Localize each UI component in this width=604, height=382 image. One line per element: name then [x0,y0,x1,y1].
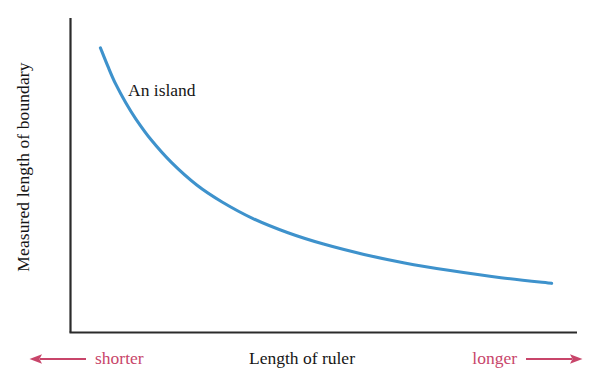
arrow-right-icon [524,350,584,368]
longer-label: longer [472,350,517,368]
x-axis-title: Length of ruler [249,350,355,368]
fractal-coastline-chart: Measured length of boundary An island sh… [0,0,604,382]
longer-caption: longer [472,344,584,374]
plot-canvas [0,0,604,382]
x-axis-caption-row: shorter Length of ruler longer [0,344,604,374]
curve-annotation-an-island: An island [128,80,196,101]
